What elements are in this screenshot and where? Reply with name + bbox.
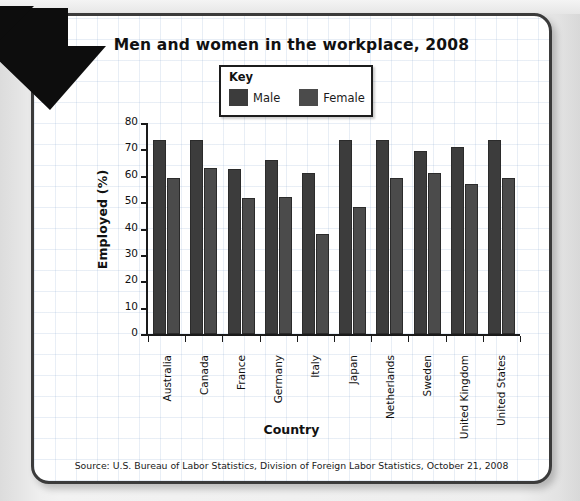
x-tick-mark <box>260 336 261 342</box>
bar-united-states-male <box>488 140 501 334</box>
y-tick-70: 70 <box>120 149 146 150</box>
y-tick-20: 20 <box>120 281 146 282</box>
bar-group <box>371 123 408 334</box>
legend-label-male: Male <box>253 91 280 105</box>
x-label-japan: Japan <box>347 355 359 384</box>
legend-swatch-female <box>299 89 318 106</box>
y-tick-label: 60 <box>118 168 138 180</box>
y-tick-label: 50 <box>118 194 138 206</box>
bar-canada-male <box>190 140 203 334</box>
x-label-sweden: Sweden <box>421 355 433 397</box>
y-tick-0: 0 <box>120 334 146 335</box>
bar-australia-female <box>167 178 180 334</box>
bar-groups <box>148 123 520 334</box>
x-label-canada: Canada <box>198 355 210 395</box>
bar-sweden-male <box>414 151 427 334</box>
y-tick-30: 30 <box>120 255 146 256</box>
bar-group <box>297 123 334 334</box>
legend-swatch-male <box>229 89 248 106</box>
y-tick-label: 30 <box>118 247 138 259</box>
down-right-arrow-icon <box>0 6 112 116</box>
y-tick-label: 20 <box>118 273 138 285</box>
y-tick-label: 40 <box>118 221 138 233</box>
bar-netherlands-female <box>390 178 403 334</box>
y-tick-mark <box>141 255 146 257</box>
x-label-italy: Italy <box>309 355 321 378</box>
x-tick-mark <box>185 336 186 342</box>
bar-italy-female <box>316 234 329 334</box>
x-label-germany: Germany <box>272 355 284 403</box>
x-axis-title: Country <box>34 422 549 437</box>
bar-united-kingdom-female <box>465 184 478 334</box>
x-label-france: France <box>235 355 247 390</box>
y-tick-50: 50 <box>120 202 146 203</box>
bar-group <box>222 123 259 334</box>
bar-group <box>446 123 483 334</box>
y-tick-label: 80 <box>118 115 138 127</box>
y-tick-label: 10 <box>118 300 138 312</box>
bar-france-male <box>228 169 241 334</box>
bar-netherlands-male <box>376 140 389 334</box>
x-label-australia: Australia <box>161 355 173 401</box>
y-tick-mark <box>141 149 146 151</box>
y-tick-label: 70 <box>118 141 138 153</box>
x-label-united-states: United States <box>495 355 507 426</box>
legend-title: Key <box>229 70 253 84</box>
x-tick-mark <box>222 336 223 342</box>
bar-group <box>483 123 520 334</box>
y-tick-40: 40 <box>120 229 146 230</box>
x-axis-ticks <box>146 336 520 342</box>
bar-group <box>408 123 445 334</box>
x-label-netherlands: Netherlands <box>384 355 396 419</box>
y-tick-60: 60 <box>120 176 146 177</box>
y-tick-mark <box>141 176 146 178</box>
y-tick-mark <box>141 308 146 310</box>
bar-united-kingdom-male <box>451 147 464 334</box>
bar-canada-female <box>204 168 217 334</box>
bar-germany-male <box>265 160 278 334</box>
y-tick-label: 0 <box>118 326 138 338</box>
bar-germany-female <box>279 197 292 334</box>
y-tick-mark <box>141 229 146 231</box>
legend-entries: Male Female <box>229 89 367 106</box>
x-tick-mark <box>148 336 149 342</box>
x-tick-mark <box>371 336 372 342</box>
x-tick-mark <box>520 336 521 342</box>
x-tick-mark <box>334 336 335 342</box>
y-tick-mark <box>141 123 146 125</box>
x-tick-mark <box>408 336 409 342</box>
x-tick-mark <box>297 336 298 342</box>
legend-label-female: Female <box>323 91 365 105</box>
y-axis-title: Employed (%) <box>95 140 110 300</box>
x-tick-mark <box>446 336 447 342</box>
bar-france-female <box>242 198 255 334</box>
y-tick-mark <box>141 281 146 283</box>
bar-group <box>185 123 222 334</box>
y-tick-mark <box>141 202 146 204</box>
bar-group <box>334 123 371 334</box>
plot-area: 80706050403020100 <box>120 123 520 351</box>
y-tick-10: 10 <box>120 308 146 309</box>
bar-united-states-female <box>502 178 515 334</box>
screenshot-root: Men and women in the workplace, 2008 Key… <box>0 0 580 501</box>
source-note: Source: U.S. Bureau of Labor Statistics,… <box>34 460 549 471</box>
chart-legend: Key Male Female <box>219 65 373 117</box>
bar-group <box>148 123 185 334</box>
y-tick-80: 80 <box>120 123 146 124</box>
bar-australia-male <box>153 140 166 334</box>
bar-japan-female <box>353 207 366 334</box>
x-tick-mark <box>483 336 484 342</box>
bar-italy-male <box>302 173 315 334</box>
bar-sweden-female <box>428 173 441 334</box>
bar-japan-male <box>339 140 352 334</box>
bar-group <box>260 123 297 334</box>
